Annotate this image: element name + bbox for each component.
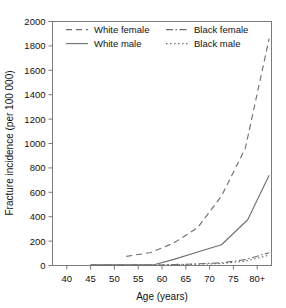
- y-tick-label: 1800: [24, 40, 45, 51]
- y-tick-label: 1200: [24, 114, 45, 125]
- y-tick-label: 1000: [24, 138, 45, 149]
- y-tick-label: 800: [30, 162, 46, 173]
- series-line-black-female: [91, 253, 270, 265]
- y-tick-label: 200: [30, 236, 46, 247]
- y-axis-tick-labels: 0200400600800100012001400160018002000: [24, 16, 45, 271]
- y-tick-label: 0: [40, 260, 45, 271]
- legend-label: Black male: [194, 38, 240, 49]
- legend-label: White male: [94, 38, 142, 49]
- x-tick-label: 70: [204, 273, 215, 284]
- fracture-incidence-line-chart: 0200400600800100012001400160018002000 40…: [0, 0, 286, 308]
- series-line-white-male: [91, 175, 270, 265]
- y-tick-label: 1600: [24, 65, 45, 76]
- series-line-white-female: [126, 39, 269, 257]
- x-axis-tick-labels: 404550556065707580+: [61, 273, 265, 284]
- x-tick-label: 50: [109, 273, 120, 284]
- chart-legend: White femaleBlack femaleWhite maleBlack …: [66, 24, 248, 49]
- y-axis-title: Fracture incidence (per 100 000): [4, 70, 15, 215]
- x-tick-label: 75: [228, 273, 239, 284]
- figure-container: 0200400600800100012001400160018002000 40…: [0, 0, 286, 308]
- y-axis-ticks: [49, 22, 53, 266]
- y-tick-label: 2000: [24, 16, 45, 27]
- x-tick-label: 60: [157, 273, 168, 284]
- data-series-group: [91, 39, 270, 266]
- x-tick-label: 80+: [249, 273, 266, 284]
- x-tick-label: 65: [181, 273, 192, 284]
- x-tick-label: 45: [85, 273, 96, 284]
- x-axis-ticks: [67, 266, 257, 270]
- legend-label: Black female: [194, 24, 248, 35]
- y-tick-label: 600: [30, 187, 46, 198]
- y-tick-label: 400: [30, 211, 46, 222]
- x-tick-label: 55: [133, 273, 144, 284]
- legend-label: White female: [94, 24, 149, 35]
- y-tick-label: 1400: [24, 89, 45, 100]
- x-axis-title: Age (years): [136, 291, 188, 302]
- x-tick-label: 40: [61, 273, 72, 284]
